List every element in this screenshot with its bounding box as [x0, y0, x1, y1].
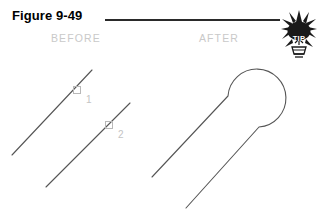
- pick-marker-1: [74, 87, 81, 94]
- filleted-path: [152, 69, 286, 208]
- fillet-diagram-drawing: [0, 0, 318, 217]
- before-line-1: [12, 70, 92, 155]
- figure-container: Figure 9-49 BEFORE AFTER 1 2: [0, 0, 318, 217]
- before-line-2: [46, 103, 130, 187]
- tip-badge: TIP: [280, 9, 318, 65]
- pick-marker-label-2: 2: [118, 129, 124, 140]
- tip-lightbulb-icon: [280, 9, 318, 65]
- pick-marker-2: [106, 122, 113, 129]
- after-panel-geometry: [152, 69, 286, 208]
- before-panel-geometry: [12, 70, 130, 187]
- pick-marker-label-1: 1: [86, 94, 92, 105]
